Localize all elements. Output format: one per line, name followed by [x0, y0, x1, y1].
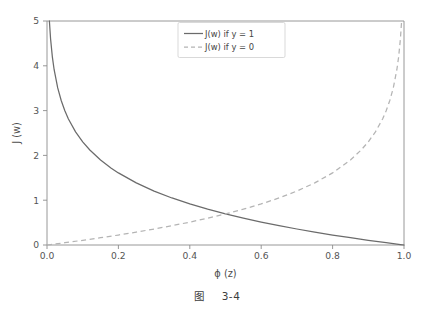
legend-label: J(w) if y = 0 — [204, 42, 254, 52]
figure-container: 0.0 0.2 0.4 0.6 0.8 1.0 0 1 2 3 4 5 ϕ (z… — [0, 0, 433, 313]
x-tick-label: 0.0 — [40, 250, 55, 261]
y-tickmarks — [43, 21, 47, 245]
y-tick-label: 5 — [33, 15, 39, 26]
x-tick-label: 0.6 — [254, 250, 269, 261]
y-tick-label: 3 — [33, 105, 39, 116]
x-tick-label: 0.2 — [111, 250, 126, 261]
legend-label: J(w) if y = 1 — [204, 29, 254, 39]
y-tick-label: 4 — [33, 60, 39, 71]
y-tick-label: 1 — [33, 195, 39, 206]
y-tick-labels: 0 1 2 3 4 5 — [33, 15, 39, 250]
x-axis-title: ϕ (z) — [214, 268, 236, 279]
x-tick-label: 0.8 — [325, 250, 340, 261]
x-tick-labels: 0.0 0.2 0.4 0.6 0.8 1.0 — [40, 250, 412, 261]
figure-caption: 图 3-4 — [194, 290, 241, 302]
y-tick-label: 0 — [33, 239, 39, 250]
y-axis-title: J (w) — [11, 122, 22, 145]
x-tick-label: 0.4 — [182, 250, 197, 261]
x-tickmarks — [47, 245, 404, 249]
chart-canvas: 0.0 0.2 0.4 0.6 0.8 1.0 0 1 2 3 4 5 ϕ (z… — [0, 0, 433, 313]
caption-prefix: 图 — [194, 290, 205, 302]
x-tick-label: 1.0 — [397, 250, 412, 261]
legend[interactable]: J(w) if y = 1 J(w) if y = 0 — [178, 23, 285, 58]
y-tick-label: 2 — [33, 150, 39, 161]
caption-number: 3-4 — [222, 290, 241, 302]
